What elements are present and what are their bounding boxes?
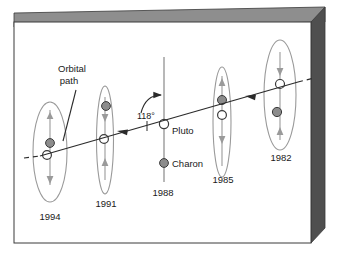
figure-canvas: 1994 1991 Pluto Charon 1988	[0, 0, 339, 258]
epoch-year-label-1994: 1994	[39, 211, 60, 222]
epoch-year-label-1982: 1982	[270, 152, 291, 163]
pluto-charon-diagram: 1994 1991 Pluto Charon 1988	[0, 0, 339, 258]
charon-body-1982	[272, 107, 281, 116]
charon-label: Charon	[172, 158, 203, 169]
charon-body-1994	[46, 139, 55, 148]
pluto-body-1985	[218, 111, 227, 120]
charon-body-1991	[102, 102, 111, 111]
charon-body-1988	[160, 159, 169, 168]
figure-frame	[14, 7, 325, 243]
epoch-year-label-1991: 1991	[95, 198, 116, 209]
frame-right-panel	[311, 7, 325, 243]
pluto-label: Pluto	[172, 125, 194, 136]
frame-front-panel	[14, 22, 311, 243]
epoch-year-label-1988: 1988	[152, 187, 173, 198]
orbital-path-label-line2: path	[60, 75, 79, 86]
epoch-year-label-1985: 1985	[212, 174, 233, 185]
angle-label: 118°	[137, 111, 155, 121]
orbital-path-label-line1: Orbital	[58, 63, 86, 74]
